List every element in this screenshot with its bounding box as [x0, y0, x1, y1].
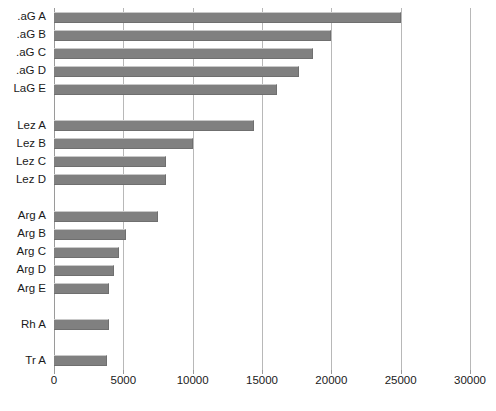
bar-arg-a [54, 211, 158, 222]
bar-row [54, 171, 470, 189]
bar-row [54, 352, 470, 370]
bar-row-spacer [54, 189, 470, 207]
bar-lez-c [54, 156, 166, 167]
bar-row [54, 153, 470, 171]
bar-lag-d [54, 66, 299, 77]
x-tick-label-0: 0 [51, 374, 57, 386]
category-label-tr-a: Tr A [25, 355, 46, 367]
bar-tr-a [54, 355, 107, 366]
bar-row [54, 26, 470, 44]
category-label-arg-c: Arg C [17, 246, 46, 258]
x-tick-mark-15000 [262, 370, 263, 374]
bar-row-spacer [54, 298, 470, 316]
bar-rows [54, 8, 470, 370]
bar-lez-d [54, 174, 166, 185]
bar-row [54, 62, 470, 80]
bar-row [54, 280, 470, 298]
category-label-lez-c: Lez C [16, 156, 46, 168]
category-label-arg-a: Arg A [18, 210, 46, 222]
category-axis-labels: .aG A.aG B.aG C.aG DLaG ELez ALez BLez C… [0, 8, 50, 370]
bar-lag-a [54, 12, 401, 23]
bar-row [54, 225, 470, 243]
category-label-lag-a: .aG A [17, 11, 46, 23]
bar-row [54, 261, 470, 279]
bar-row-spacer [54, 99, 470, 117]
bar-lez-b [54, 138, 193, 149]
x-tick-mark-25000 [401, 370, 402, 374]
x-tick-mark-30000 [470, 370, 471, 374]
bar-arg-e [54, 283, 109, 294]
bar-row [54, 207, 470, 225]
bar-row [54, 80, 470, 98]
bar-row [54, 8, 470, 26]
category-label-arg-e: Arg E [17, 283, 46, 295]
category-label-arg-d: Arg D [17, 264, 46, 276]
category-label-arg-b: Arg B [17, 228, 46, 240]
bar-row [54, 316, 470, 334]
x-tick-mark-20000 [331, 370, 332, 374]
bar-arg-b [54, 229, 126, 240]
bar-row [54, 135, 470, 153]
bar-rh-a [54, 319, 109, 330]
category-label-lag-b: .aG B [17, 29, 46, 41]
x-tick-label-25000: 25000 [385, 374, 417, 386]
x-tick-label-15000: 15000 [246, 374, 278, 386]
x-tick-label-30000: 30000 [454, 374, 486, 386]
bar-lag-b [54, 30, 331, 41]
bar-arg-d [54, 265, 114, 276]
category-label-lez-a: Lez A [17, 120, 46, 132]
bar-row [54, 117, 470, 135]
plot-area [54, 8, 470, 370]
bar-lag-c [54, 48, 313, 59]
bar-lez-a [54, 120, 254, 131]
bar-lag-e [54, 84, 277, 95]
x-tick-label-20000: 20000 [315, 374, 347, 386]
category-label-lez-d: Lez D [16, 174, 46, 186]
category-label-rh-a: Rh A [21, 319, 46, 331]
x-tick-mark-5000 [123, 370, 124, 374]
bar-chart: .aG A.aG B.aG C.aG DLaG ELez ALez BLez C… [0, 0, 496, 411]
bar-row [54, 44, 470, 62]
gridline-30000 [470, 8, 471, 370]
bar-row [54, 243, 470, 261]
category-label-lez-b: Lez B [17, 138, 46, 150]
bar-arg-c [54, 247, 119, 258]
category-label-lag-e: LaG E [13, 83, 46, 95]
category-label-lag-d: .aG D [16, 65, 46, 77]
x-tick-label-10000: 10000 [177, 374, 209, 386]
bar-row-spacer [54, 334, 470, 352]
x-tick-mark-0 [54, 370, 55, 374]
category-label-lag-c: .aG C [16, 47, 46, 59]
x-tick-mark-10000 [193, 370, 194, 374]
x-axis-tick-labels: 050001000015000200002500030000 [0, 374, 496, 394]
x-tick-label-5000: 5000 [111, 374, 137, 386]
